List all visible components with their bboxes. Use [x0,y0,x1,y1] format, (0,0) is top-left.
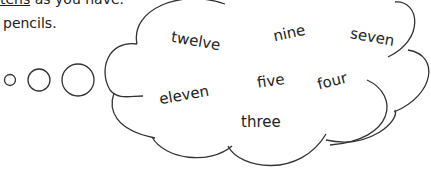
cloud-word: five [256,70,286,92]
thought-bubble-large [62,64,94,96]
cloud-word: three [241,113,281,131]
thought-bubble-medium [28,69,50,91]
thought-bubble-small [5,75,16,86]
